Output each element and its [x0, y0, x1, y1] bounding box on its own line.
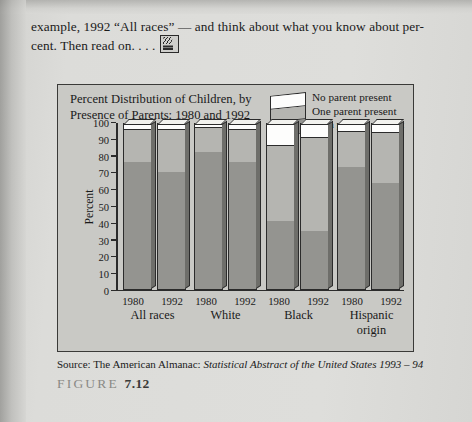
y-axis-line: [116, 123, 118, 291]
bar-segment-both: [301, 231, 328, 289]
x-year-label: 1992: [155, 295, 189, 307]
chart-title-line-1: Percent Distribution of Children, by: [70, 92, 284, 108]
bar-groups: [119, 123, 404, 290]
y-tick: [111, 239, 116, 240]
x-year-label: 1980: [116, 295, 150, 307]
legend-label-no-parent: No parent present: [312, 91, 404, 105]
x-group-labels: 19801992White: [189, 295, 262, 338]
bar-segment-one: [301, 137, 328, 231]
y-tick-label: 20: [98, 252, 109, 263]
y-tick-label: 80: [98, 151, 109, 162]
y-tick-label: 100: [93, 118, 109, 129]
figure-word: FIGURE: [57, 376, 119, 391]
bar-group: [190, 123, 261, 290]
bar-segment-one: [158, 129, 185, 172]
bar-segment-one: [195, 127, 222, 152]
x-group-labels: 19801992Black: [262, 295, 335, 338]
x-year-labels: 19801992: [335, 295, 408, 307]
bar-segment-both: [338, 167, 365, 289]
bar-segment-both: [372, 183, 399, 288]
x-year-label: 1992: [228, 295, 262, 307]
stacked-bar[interactable]: [194, 123, 223, 290]
y-axis-label: Percent: [83, 190, 96, 225]
x-year-label: 1992: [301, 295, 335, 307]
bar-segment-both: [158, 172, 185, 289]
x-year-labels: 19801992: [262, 295, 335, 307]
x-year-labels: 19801992: [116, 295, 189, 307]
intro-paragraph: example, 1992 “All races” — and think ab…: [31, 18, 443, 54]
y-tick-label: 70: [98, 168, 109, 179]
x-group-labels: 19801992All races: [116, 295, 189, 338]
y-tick: [111, 155, 116, 156]
y-tick: [111, 223, 116, 224]
y-tick-label: 40: [98, 218, 109, 229]
y-tick: [111, 256, 116, 257]
bar-slot: [157, 123, 186, 290]
bar-segment-both: [229, 162, 256, 289]
bar-segment-none: [301, 124, 328, 137]
bar-segment-both: [195, 152, 222, 289]
x-year-label: 1992: [374, 295, 408, 307]
bar-segment-one: [124, 129, 151, 162]
bar-segment-none: [267, 124, 294, 145]
stacked-bar[interactable]: [157, 123, 186, 290]
bar-slot: [337, 123, 366, 290]
x-group-labels: 19801992Hispanic origin: [335, 295, 408, 338]
intro-line-1: example, 1992 “All races” — and think ab…: [31, 18, 443, 35]
textbook-page: example, 1992 “All races” — and think ab…: [0, 0, 472, 422]
x-axis-line: [116, 290, 404, 292]
y-tick-label: 10: [98, 269, 109, 280]
bar-segment-none: [338, 124, 365, 131]
figure-number: 7.12: [125, 376, 150, 391]
bar-segment-none: [372, 124, 399, 132]
x-year-label: 1980: [262, 295, 296, 307]
figure-panel: Percent Distribution of Children, by Pre…: [57, 84, 414, 352]
y-tick-label: 30: [98, 235, 109, 246]
y-tick-label: 0: [104, 286, 109, 297]
bar-segment-one: [229, 129, 256, 162]
x-axis-labels: 19801992All races19801992White19801992Bl…: [116, 295, 404, 338]
stacked-bar[interactable]: [300, 123, 329, 290]
chart-plot-area: 1009080706050403020100 Percent: [116, 123, 404, 291]
stacked-bar[interactable]: [371, 123, 400, 290]
x-year-label: 1980: [189, 295, 223, 307]
x-group-name: Black: [262, 308, 335, 323]
bar-segment-one: [338, 131, 365, 167]
stacked-bar[interactable]: [337, 123, 366, 290]
stacked-bar[interactable]: [266, 123, 295, 290]
x-group-name: White: [189, 308, 262, 323]
y-tick: [111, 139, 116, 140]
y-tick: [111, 172, 116, 173]
page-top-shadow: [0, 0, 472, 14]
y-tick-label: 90: [98, 134, 109, 145]
writing-hand-icon: [160, 35, 179, 53]
x-group-name: Hispanic origin: [335, 308, 408, 338]
y-tick: [111, 189, 116, 190]
y-tick: [111, 206, 116, 207]
bar-group: [119, 123, 190, 290]
bar-slot: [123, 123, 152, 290]
bar-group: [262, 123, 333, 290]
y-tick: [111, 273, 116, 274]
page-gutter-shadow: [0, 0, 26, 422]
bar-slot: [228, 123, 257, 290]
bar-segment-both: [267, 221, 294, 288]
x-group-name: All races: [116, 308, 189, 323]
y-tick-label: 50: [98, 202, 109, 213]
stacked-bar[interactable]: [228, 123, 257, 290]
legend-label-one-parent: One parent present: [312, 105, 404, 119]
figure-caption: FIGURE 7.12: [57, 376, 150, 392]
y-tick-label: 60: [98, 185, 109, 196]
bar-slot: [371, 123, 400, 290]
bar-segment-one: [372, 132, 399, 183]
intro-line-2-wrap: cent. Then read on. . . .: [31, 35, 443, 54]
stacked-bar[interactable]: [123, 123, 152, 290]
source-prefix: Source: The American Almanac:: [57, 358, 203, 370]
figure-source: Source: The American Almanac: Statistica…: [57, 358, 437, 370]
bar-slot: [266, 123, 295, 290]
bar-slot: [300, 123, 329, 290]
source-title: Statistical Abstract of the United State…: [203, 358, 423, 370]
x-year-labels: 19801992: [189, 295, 262, 307]
bar-slot: [194, 123, 223, 290]
bar-group: [333, 123, 404, 290]
